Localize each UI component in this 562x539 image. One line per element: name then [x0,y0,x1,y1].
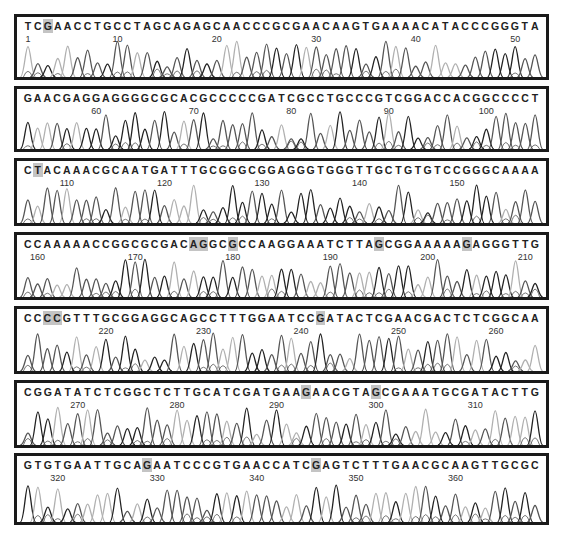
base-call: A [140,311,150,325]
base-call: A [121,163,131,177]
chromatogram-panel: CGGATATCTCGGCTCTTGCATCGATGAAGAACGTAGCGAA… [14,380,549,448]
base-call: T [23,19,33,33]
base-call: A [450,458,460,472]
base-call: G [335,163,345,177]
base-call: T [520,385,530,399]
base-call: T [364,311,374,325]
base-call: T [440,19,450,33]
base-call: G [371,385,381,399]
base-call: C [501,91,511,105]
base-call: C [189,91,199,105]
base-call: A [162,458,172,472]
chromatogram-panel: GAACGAGGAGGGGCGCACGCCCCCGATCGCCTGCCCGTCG… [14,86,549,152]
base-call: G [384,311,394,325]
chromatogram-panel: CCCCGTTTGCGGAGGCAGCCTTTGGAATCCGATACTCGAA… [14,306,549,374]
base-call: C [433,91,443,105]
base-call: C [440,458,450,472]
base-call: T [53,458,63,472]
base-call: G [121,237,131,251]
base-call: A [192,19,202,33]
base-call: A [142,19,152,33]
base-call: T [82,311,92,325]
base-call: G [472,163,482,177]
chromatogram-panel: GTGTGAATTGCAGAATCCCGTGAACCATCGAGTCTTTGAA… [14,453,549,525]
base-call: A [267,311,277,325]
base-call: A [43,163,53,177]
base-calls: GAACGAGGAGGGGCGCACGCCCCCGATCGCCTGCCCGTCG… [23,91,540,105]
base-call: A [72,237,82,251]
base-call: G [150,311,160,325]
base-call: A [423,91,433,105]
base-calls: TCGAACCTGCCTAGCAGAGCAACCCGCGAACAAGTGAAAA… [23,19,540,33]
base-call: T [63,385,73,399]
base-call: A [52,237,62,251]
base-call: T [341,458,351,472]
base-call: A [101,91,111,105]
base-call: A [391,19,401,33]
trace-peaks [17,327,546,371]
base-call: C [228,91,238,105]
base-call: C [218,237,228,251]
base-call: C [252,19,262,33]
base-call: T [325,91,335,105]
base-call: A [511,163,521,177]
base-call: A [43,237,53,251]
base-call: A [277,163,287,177]
base-call: G [403,91,413,105]
base-call: T [530,91,540,105]
base-call: A [381,19,391,33]
base-call: G [371,19,381,33]
base-call: C [481,311,491,325]
base-call: A [212,385,222,399]
base-call: A [281,458,291,472]
base-call: G [218,163,228,177]
base-call: C [130,237,140,251]
base-call: C [374,311,384,325]
base-call: A [430,19,440,33]
base-call: T [93,458,103,472]
base-call: C [208,91,218,105]
base-call: C [122,458,132,472]
base-call: G [331,458,341,472]
base-call: G [267,163,277,177]
base-call: C [232,385,242,399]
base-call: G [121,311,131,325]
base-call: A [450,19,460,33]
trace-peaks [17,33,546,77]
base-call: T [93,19,103,33]
base-call: C [43,311,53,325]
base-call: G [311,458,321,472]
base-call: G [228,163,238,177]
base-call: C [442,311,452,325]
base-call: T [345,237,355,251]
base-call: G [501,237,511,251]
base-call: A [501,163,511,177]
base-call: C [199,311,209,325]
base-call: T [132,19,142,33]
base-call: T [394,163,404,177]
base-call: A [411,385,421,399]
base-call: G [199,91,209,105]
base-call: G [142,458,152,472]
base-call: A [291,385,301,399]
trace-peaks [17,401,546,445]
base-call: A [189,237,199,251]
base-call: C [212,19,222,33]
chromatogram-panel: TCGAACCTGCCTAGCAGAGCAACCCGCGAACAAGTGAAAA… [14,14,549,80]
base-call: A [530,19,540,33]
base-call: C [52,311,62,325]
base-call: A [452,91,462,105]
base-call: C [169,311,179,325]
base-call: A [401,19,411,33]
base-call: T [286,311,296,325]
base-call: A [316,237,326,251]
base-call: T [480,458,490,472]
base-call: G [101,163,111,177]
base-call: A [411,458,421,472]
base-call: A [179,91,189,105]
base-call: T [238,311,248,325]
base-call: T [262,385,272,399]
base-call: C [381,385,391,399]
base-call: A [252,385,262,399]
base-call: G [33,385,43,399]
